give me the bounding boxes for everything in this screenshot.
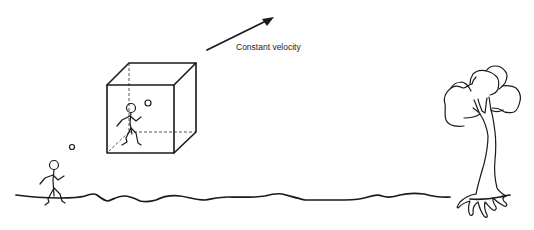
wavy-ground-line xyxy=(16,193,450,201)
diagram-scene: Constant velocity xyxy=(0,0,534,230)
ball-in-box xyxy=(145,100,151,106)
ball-on-ground xyxy=(70,145,75,150)
velocity-label: Constant velocity xyxy=(236,42,301,52)
moving-box-cube xyxy=(107,63,196,153)
diagram-canvas xyxy=(0,0,534,230)
